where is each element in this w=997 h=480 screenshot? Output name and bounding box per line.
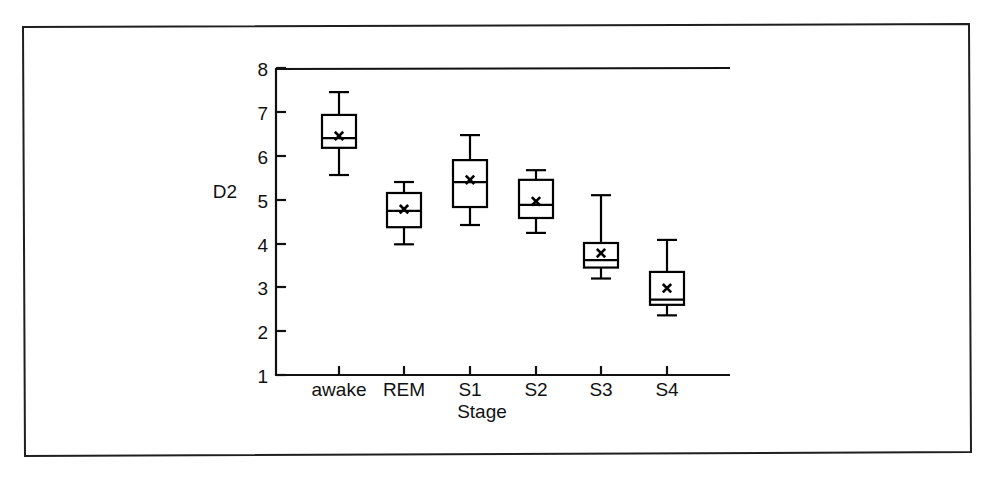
x-tick-label-s3: S3: [589, 379, 612, 400]
box-series: [322, 92, 684, 315]
y-tick-label: 6: [257, 147, 268, 168]
x-tick-label-s4: S4: [655, 379, 679, 400]
y-tick-label: 4: [257, 235, 268, 256]
box-body: [519, 180, 553, 218]
y-tick-label: 3: [257, 278, 268, 299]
x-axis-tick-labels: awake REM S1 S2 S3 S4: [312, 379, 680, 400]
y-axis-tick-labels: 8 7 6 5 4 3 2 1: [257, 59, 268, 387]
box-REM: [387, 182, 421, 244]
y-axis-title: D2: [213, 181, 237, 202]
y-tick-label: 2: [257, 322, 268, 343]
x-tick-label-awake: awake: [312, 379, 367, 400]
x-axis-ticks: [339, 366, 667, 375]
box-body: [584, 243, 618, 268]
y-tick-label: 5: [257, 191, 268, 212]
box-S3: [584, 195, 618, 278]
x-axis-title: Stage: [457, 401, 507, 422]
box-S2: [519, 170, 553, 233]
y-tick-label: 7: [257, 103, 268, 124]
x-tick-label-rem: REM: [383, 379, 425, 400]
y-axis-ticks: [276, 68, 286, 375]
box-body: [322, 115, 356, 148]
box-body: [453, 160, 487, 207]
outer-frame: [23, 24, 971, 456]
x-tick-label-s2: S2: [524, 379, 547, 400]
box-S4: [650, 240, 684, 315]
box-S1: [453, 135, 487, 225]
box-awake: [322, 92, 356, 175]
figure-root: 8 7 6 5 4 3 2 1 awake REM: [0, 0, 997, 480]
x-tick-label-s1: S1: [458, 379, 481, 400]
y-tick-label: 8: [257, 59, 268, 80]
y-tick-label: 1: [257, 366, 268, 387]
boxplot-figure: 8 7 6 5 4 3 2 1 awake REM: [0, 0, 997, 480]
plot-area: 8 7 6 5 4 3 2 1 awake REM: [213, 59, 730, 422]
